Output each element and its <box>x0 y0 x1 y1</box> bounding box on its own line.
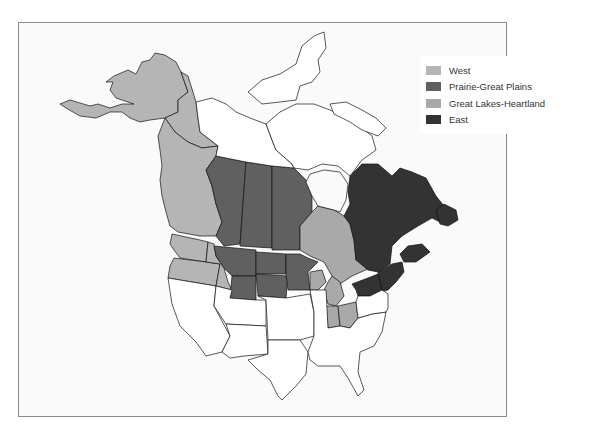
region-arizona-new-mexico <box>222 324 268 358</box>
region-wyoming <box>230 276 256 300</box>
legend-item-great-lakes: Great Lakes-Heartland <box>426 95 538 112</box>
region-quebec <box>344 164 452 272</box>
region-north-dakota <box>256 252 286 274</box>
legend-label-great-lakes: Great Lakes-Heartland <box>449 98 545 109</box>
legend-label-prairie: Prairie-Great Plains <box>449 81 532 92</box>
legend-item-west: West <box>426 62 538 79</box>
legend-swatch-west <box>426 66 441 75</box>
legend-item-east: East <box>426 112 538 129</box>
map-legend: West Prairie-Great Plains Great Lakes-He… <box>420 56 544 134</box>
region-arctic-islands <box>248 32 326 104</box>
legend-swatch-east <box>426 115 441 124</box>
region-wisconsin-shade <box>310 270 326 290</box>
region-washington <box>170 234 208 262</box>
legend-swatch-prairie <box>426 82 441 91</box>
legend-item-prairie: Prairie-Great Plains <box>426 79 538 96</box>
region-newfoundland <box>436 204 458 226</box>
region-south-dakota <box>256 274 288 298</box>
region-maritimes <box>400 244 430 262</box>
legend-label-west: West <box>449 65 470 76</box>
region-alaska <box>60 53 188 122</box>
legend-swatch-great-lakes <box>426 99 441 108</box>
region-saskatchewan <box>240 162 272 248</box>
legend-label-east: East <box>449 114 468 125</box>
